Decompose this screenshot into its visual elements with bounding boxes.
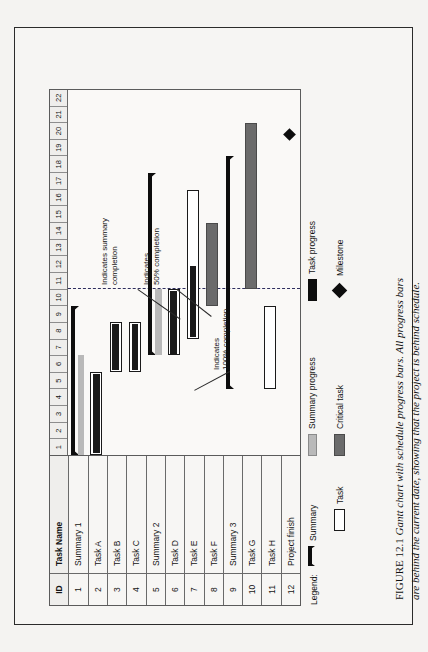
figure-caption-wrap: FIGURE 12.1 Gantt chart with schedule pr… (392, 55, 428, 600)
anno-summary-completion: Indicates summary completion (100, 218, 119, 285)
gantt-row-1 (68, 90, 87, 455)
gantt-row-7 (184, 90, 203, 455)
timeline-column-16: 16 (50, 189, 67, 206)
table-row[interactable]: 8Task F (205, 456, 224, 605)
cell-id: 9 (224, 573, 242, 605)
legend-summary-progress: Summary progress (307, 357, 317, 456)
cell-id: 3 (108, 573, 126, 605)
summary-bar[interactable] (71, 306, 75, 455)
milestone-diamond-icon (332, 283, 348, 299)
timeline-column-3: 3 (50, 405, 67, 422)
cell-id: 1 (69, 573, 87, 605)
task-bar[interactable] (264, 306, 276, 389)
legend-label: Task progress (307, 221, 317, 274)
timeline-column-22: 22 (50, 90, 67, 106)
table-row[interactable]: 9Summary 3 (224, 456, 243, 605)
column-header-name: Task Name (50, 456, 68, 573)
summary-cap-right (71, 306, 79, 313)
legend-task-progress: Task progress (307, 221, 317, 301)
table-row[interactable]: 11Task H (262, 456, 281, 605)
legend-summary: Summary (307, 505, 318, 566)
table-row[interactable]: 12Project finish (282, 456, 300, 605)
table-row[interactable]: 4Task C (127, 456, 146, 605)
task-bar-icon (334, 509, 345, 531)
timeline-column-8: 8 (50, 322, 67, 339)
cell-id: 4 (127, 573, 145, 605)
cell-task-name: Task B (108, 456, 126, 573)
timeline-column-10: 10 (50, 289, 67, 306)
cell-id: 12 (282, 573, 300, 605)
caption-label: FIGURE 12.1 (393, 538, 405, 600)
timeline-column-13: 13 (50, 239, 67, 256)
cell-task-name: Summary 3 (224, 456, 242, 573)
table-row[interactable]: 6Task D (166, 456, 185, 605)
legend-task: Task (334, 487, 345, 531)
gantt-row-9 (223, 90, 242, 455)
gantt-figure-rotated: ID Task Name 1Summary 1 2Task A 3Task B … (49, 46, 379, 606)
summary-cap-right (226, 156, 234, 163)
timeline-column-6: 6 (50, 355, 67, 372)
timeline-column-1: 1 (50, 438, 67, 455)
anno-100-completion: Indicates 100% completion (212, 309, 231, 370)
figure-caption: FIGURE 12.1 Gantt chart with schedule pr… (392, 262, 424, 600)
legend-label: Milestone (335, 240, 345, 276)
cell-id: 2 (89, 573, 107, 605)
cell-id: 7 (185, 573, 203, 605)
gantt-chart: ID Task Name 1Summary 1 2Task A 3Task B … (49, 89, 301, 606)
critical-task-bar[interactable] (206, 223, 218, 306)
timeline-column-21: 21 (50, 106, 67, 123)
timeline-column-14: 14 (50, 222, 67, 239)
cell-task-name: Task F (205, 456, 223, 573)
cell-id: 10 (243, 573, 261, 605)
cell-task-name: Task C (127, 456, 145, 573)
legend-label: Summary progress (307, 357, 317, 429)
timeline-column-20: 20 (50, 122, 67, 139)
table-row[interactable]: 3Task B (108, 456, 127, 605)
legend-label: Summary (308, 505, 318, 541)
milestone-marker[interactable] (283, 128, 296, 141)
table-row[interactable]: 2Task A (89, 456, 108, 605)
table-row[interactable]: 7Task E (185, 456, 204, 605)
task-table: ID Task Name 1Summary 1 2Task A 3Task B … (49, 456, 301, 606)
cell-task-name: Task A (89, 456, 107, 573)
task-progress-bar[interactable] (112, 324, 119, 371)
legend-label: Task (335, 487, 345, 504)
task-progress-icon (308, 279, 317, 301)
task-progress-bar[interactable] (170, 291, 177, 354)
cell-id: 5 (147, 573, 165, 605)
timeline-column-18: 18 (50, 155, 67, 172)
cell-task-name: Summary 1 (69, 456, 87, 573)
timeline-column-15: 15 (50, 205, 67, 222)
timeline-column-5: 5 (50, 372, 67, 389)
cell-task-name: Task G (243, 456, 261, 573)
task-progress-bar[interactable] (132, 324, 139, 371)
timeline-column-9: 9 (50, 305, 67, 322)
gantt-row-6 (165, 90, 184, 455)
gantt-row-10 (242, 90, 261, 455)
anno-50-completion: Indicates 50% completion (142, 228, 161, 285)
cell-task-name: Summary 2 (147, 456, 165, 573)
legend-title: Legend: (309, 574, 319, 605)
table-header-row: ID Task Name (50, 456, 69, 605)
summary-progress-bar[interactable] (78, 355, 85, 455)
legend-label: Critical task (335, 385, 345, 429)
critical-task-bar[interactable] (245, 123, 257, 289)
column-header-id: ID (50, 573, 68, 605)
timeline-column-11: 11 (50, 272, 67, 289)
cell-id: 8 (205, 573, 223, 605)
timeline-column-4: 4 (50, 388, 67, 405)
summary-progress-bar[interactable] (155, 289, 162, 355)
gantt-row-12 (281, 90, 300, 455)
table-row[interactable]: 5Summary 2 (147, 456, 166, 605)
gantt-row-8 (203, 90, 222, 455)
summary-cap-left (226, 382, 234, 389)
table-row[interactable]: 10Task G (243, 456, 262, 605)
legend-milestone: Milestone (334, 240, 345, 301)
timeline-column-7: 7 (50, 339, 67, 356)
gantt-row-11 (261, 90, 280, 455)
cell-task-name: Task D (166, 456, 184, 573)
timeline-header: 12345678910111213141516171819202122 (50, 90, 68, 455)
table-row[interactable]: 1Summary 1 (69, 456, 88, 605)
timeline-column-12: 12 (50, 255, 67, 272)
task-progress-bar[interactable] (93, 374, 100, 454)
